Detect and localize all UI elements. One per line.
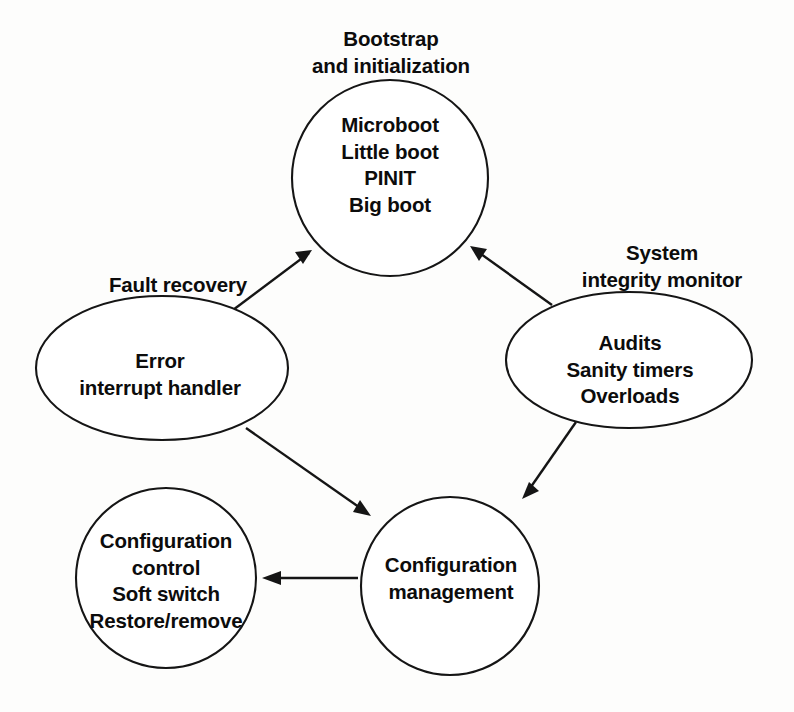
edge-monitor-to-config-management [522, 422, 576, 499]
diagram-canvas: Bootstrap and initialization Microboot L… [0, 0, 794, 712]
node-configuration-management-line1: Configuration [360, 552, 542, 579]
edge-monitor-to-bootstrap [470, 246, 552, 305]
node-fault-recovery-line2: interrupt handler [45, 375, 275, 402]
caption-bootstrap: Bootstrap and initialization [275, 26, 507, 79]
node-configuration-control-line3: Soft switch [62, 581, 270, 608]
caption-bootstrap-line2: and initialization [275, 53, 507, 80]
node-configuration-control-line2: control [62, 555, 270, 582]
edge-monitor-to-config-management-line [526, 422, 576, 494]
node-configuration-management-line2: management [360, 579, 542, 606]
node-system-integrity-monitor-line3: Overloads [520, 383, 740, 410]
node-configuration-control-line4: Restore/remove [62, 608, 270, 635]
node-configuration-control-label: Configuration control Soft switch Restor… [62, 528, 270, 635]
edge-fault-to-config-management-arrowhead [353, 500, 371, 516]
node-fault-recovery-label: Error interrupt handler [45, 348, 275, 401]
caption-fault-recovery: Fault recovery [78, 272, 278, 299]
caption-fault-recovery-line1: Fault recovery [78, 272, 278, 299]
caption-system-integrity-monitor: System integrity monitor [548, 240, 776, 293]
node-system-integrity-monitor-label: Audits Sanity timers Overloads [520, 330, 740, 410]
edge-monitor-to-bootstrap-arrowhead [470, 246, 487, 261]
node-bootstrap-line2: Little boot [290, 139, 490, 166]
edge-monitor-to-bootstrap-line [474, 249, 552, 305]
node-configuration-control-line1: Configuration [62, 528, 270, 555]
node-bootstrap-line3: PINIT [290, 165, 490, 192]
caption-bootstrap-line1: Bootstrap [275, 26, 507, 53]
caption-system-integrity-monitor-line2: integrity monitor [548, 267, 776, 294]
edge-fault-to-config-management [246, 428, 371, 516]
edge-monitor-to-config-management-arrowhead [522, 482, 539, 499]
node-fault-recovery-line1: Error [45, 348, 275, 375]
node-system-integrity-monitor-line2: Sanity timers [520, 357, 740, 384]
node-bootstrap-label: Microboot Little boot PINIT Big boot [290, 112, 490, 219]
caption-system-integrity-monitor-line1: System [548, 240, 776, 267]
node-system-integrity-monitor-line1: Audits [520, 330, 740, 357]
node-configuration-management-label: Configuration management [360, 552, 542, 605]
node-bootstrap-line1: Microboot [290, 112, 490, 139]
edge-fault-to-config-management-line [246, 428, 366, 512]
edge-config-management-to-config-control [262, 571, 358, 585]
node-bootstrap-line4: Big boot [290, 192, 490, 219]
